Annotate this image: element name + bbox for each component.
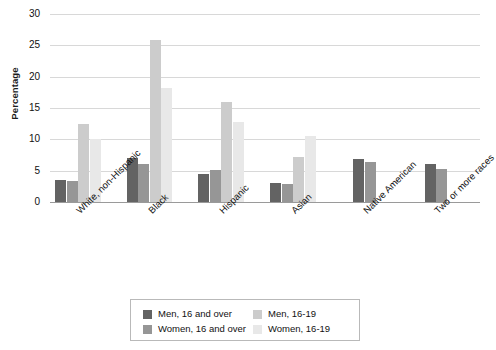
bar (55, 180, 66, 202)
bar (67, 181, 78, 202)
y-tick-label: 5 (14, 166, 40, 176)
legend-label: Men, 16-19 (268, 309, 316, 319)
bar (282, 184, 293, 202)
bar (198, 174, 209, 202)
legend-label: Men, 16 and over (158, 309, 232, 319)
bar-group (122, 14, 194, 202)
y-tick-label: 15 (14, 103, 40, 113)
legend-label: Women, 16-19 (268, 324, 330, 334)
legend-swatch-icon (253, 310, 262, 319)
bar (210, 170, 221, 202)
legend-label: Women, 16 and over (158, 324, 246, 334)
bar (221, 102, 232, 202)
bar-group (265, 14, 337, 202)
y-tick-label: 10 (14, 134, 40, 144)
axis-baseline (50, 202, 480, 203)
y-tick-label: 20 (14, 72, 40, 82)
chart-legend: Men, 16 and overMen, 16-19Women, 16 and … (130, 299, 360, 341)
legend-swatch-icon (253, 325, 262, 334)
y-tick-label: 0 (14, 197, 40, 207)
y-axis-title: Percentage (9, 44, 20, 144)
y-tick-label: 25 (14, 40, 40, 50)
bar (161, 88, 172, 202)
bar (78, 124, 89, 202)
legend-item: Men, 16-19 (253, 308, 316, 320)
legend-item: Women, 16-19 (253, 323, 330, 335)
bar (150, 40, 161, 202)
bar (270, 183, 281, 202)
y-tick-label: 30 (14, 9, 40, 19)
legend-swatch-icon (143, 325, 152, 334)
bar-group (193, 14, 265, 202)
bar (425, 164, 436, 202)
bar (138, 164, 149, 202)
bar (353, 159, 364, 202)
legend-item: Women, 16 and over (143, 323, 246, 335)
legend-item: Men, 16 and over (143, 308, 232, 320)
legend-swatch-icon (143, 310, 152, 319)
